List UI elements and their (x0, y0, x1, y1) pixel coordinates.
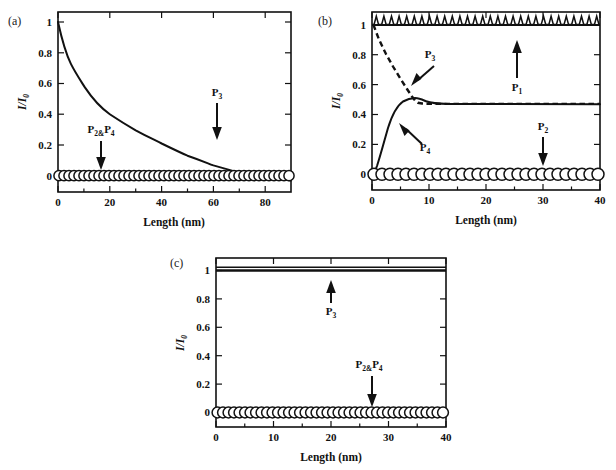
xtick-label: 10 (424, 194, 436, 206)
svg-text:I/I0: I/I0 (330, 93, 345, 110)
ytick-label: 0.4 (352, 108, 366, 120)
annotation-p3-sub: 3 (332, 311, 336, 320)
ytick-label: 0.4 (196, 350, 210, 362)
annotation-p2-and-p4: P2&P4 (87, 123, 114, 170)
annotation-p1-sub: 1 (518, 87, 522, 96)
annotation-p2-sub: 2 (544, 126, 548, 135)
xtick-label: 60 (208, 196, 220, 208)
panel-a-yaxis-title: I/I0 (16, 94, 31, 111)
panel-a-xticks (58, 12, 265, 192)
yaxis-title-sub: 0 (180, 335, 189, 339)
panel-b: (b) (308, 0, 616, 235)
panel-c-tag: (c) (170, 256, 183, 271)
annotation-p2-and-p4: P2&P4 (355, 358, 382, 407)
panel-b-ytick-labels: 0 0.2 0.4 0.6 0.8 1 (352, 19, 366, 181)
ytick-label: 0.2 (38, 139, 52, 151)
xtick-label: 40 (595, 194, 607, 206)
series-p4-curve (373, 98, 601, 174)
annotation-p4-sub: 4 (426, 147, 430, 156)
yaxis-title-sub: 0 (22, 94, 31, 98)
panel-c-xaxis-title: Length (nm) (300, 451, 362, 464)
svg-text:P3: P3 (212, 86, 223, 101)
annotation-p1: P1 (512, 40, 523, 96)
annotation-p3: P3 (326, 280, 337, 320)
xtick-label: 40 (156, 196, 168, 208)
xtick-label: 20 (326, 431, 338, 443)
series-p2-markers (368, 168, 604, 180)
series-p2p4-markers (212, 407, 448, 418)
panel-b-yaxis-title: I/I0 (330, 93, 345, 110)
annotation-p4-sub: 4 (379, 364, 383, 373)
svg-text:P2: P2 (538, 120, 549, 135)
ytick-label: 0 (361, 168, 367, 180)
svg-text:I/I0: I/I0 (16, 94, 31, 111)
ytick-label: 1 (47, 16, 53, 28)
panel-c-xtick-labels: 0 10 20 30 40 (213, 431, 452, 443)
panel-c-ytick-labels: 0 0.2 0.4 0.6 0.8 1 (196, 264, 210, 418)
xtick-label: 30 (383, 431, 395, 443)
xtick-label: 20 (104, 196, 116, 208)
svg-text:P1: P1 (512, 81, 523, 96)
panel-a-plot: 0 20 40 60 80 0 0.2 0.4 0.6 0.8 1 Length… (0, 0, 310, 235)
panel-c-plot: 0 10 20 30 40 0 0.2 0.4 0.6 0.8 1 Length… (150, 235, 480, 470)
ytick-label: 0.6 (196, 321, 210, 333)
panel-c-yaxis-title: I/I0 (174, 335, 189, 352)
panel-b-xaxis-title: Length (nm) (455, 214, 517, 227)
series-p2p4-markers (54, 171, 294, 181)
panel-a-tag: (a) (8, 14, 21, 29)
yaxis-title-sub: 0 (336, 93, 345, 97)
ytick-label: 0.6 (38, 77, 52, 89)
ytick-label: 0.8 (196, 293, 210, 305)
svg-text:I/I0: I/I0 (174, 335, 189, 352)
yaxis-title-main: I/I (330, 96, 342, 110)
annotation-p4: P4 (399, 123, 430, 156)
ytick-label: 1 (205, 264, 211, 276)
panel-a-xaxis-title: Length (nm) (143, 216, 205, 229)
xtick-label: 10 (268, 431, 280, 443)
panel-c: (c) (150, 235, 480, 470)
ytick-label: 0 (205, 406, 211, 418)
xtick-label: 30 (538, 194, 550, 206)
xtick-label: 0 (213, 431, 219, 443)
annotation-p3-sub: 3 (218, 92, 222, 101)
ytick-label: 0.6 (352, 79, 366, 91)
series-p3-flat (216, 267, 446, 270)
xtick-label: 80 (260, 196, 272, 208)
svg-text:P2&P4: P2&P4 (355, 358, 382, 373)
ytick-label: 0.2 (196, 378, 210, 390)
yaxis-title-main: I/I (174, 338, 186, 352)
yaxis-title-main: I/I (16, 97, 28, 111)
ytick-label: 0.8 (352, 49, 366, 61)
xtick-label: 0 (55, 196, 61, 208)
panel-b-xtick-labels: 0 10 20 30 40 (369, 194, 606, 206)
figure-root: (a) (0, 0, 616, 470)
annotation-p2: P2 (538, 120, 549, 166)
annotation-p3: P3 (411, 48, 435, 86)
panel-b-plot: 0 10 20 30 40 0 0.2 0.4 0.6 0.8 1 Length… (308, 0, 616, 235)
xtick-label: 0 (369, 194, 375, 206)
panel-b-tag: (b) (318, 14, 332, 29)
panel-a-ytick-labels: 0 0.2 0.4 0.6 0.8 1 (38, 16, 52, 182)
xtick-label: 40 (441, 431, 453, 443)
annotation-p3-sub: 3 (431, 54, 435, 63)
ytick-label: 0 (47, 170, 53, 182)
ytick-label: 0.8 (38, 47, 52, 59)
ytick-label: 1 (361, 19, 367, 31)
series-p3-curve (58, 22, 291, 180)
annotation-p3: P3 (212, 86, 223, 140)
series-p3-dashed (373, 25, 600, 104)
svg-text:P2&P4: P2&P4 (87, 123, 114, 138)
ytick-label: 0.2 (352, 138, 366, 150)
ytick-label: 0.4 (38, 108, 52, 120)
svg-text:P3: P3 (425, 48, 436, 63)
annotation-p4-sub: 4 (111, 129, 115, 138)
panel-a-xtick-labels: 0 20 40 60 80 (55, 196, 271, 208)
xtick-label: 20 (481, 194, 493, 206)
svg-text:P3: P3 (326, 305, 337, 320)
panel-a: (a) (0, 0, 310, 235)
panel-a-frame (58, 12, 291, 192)
